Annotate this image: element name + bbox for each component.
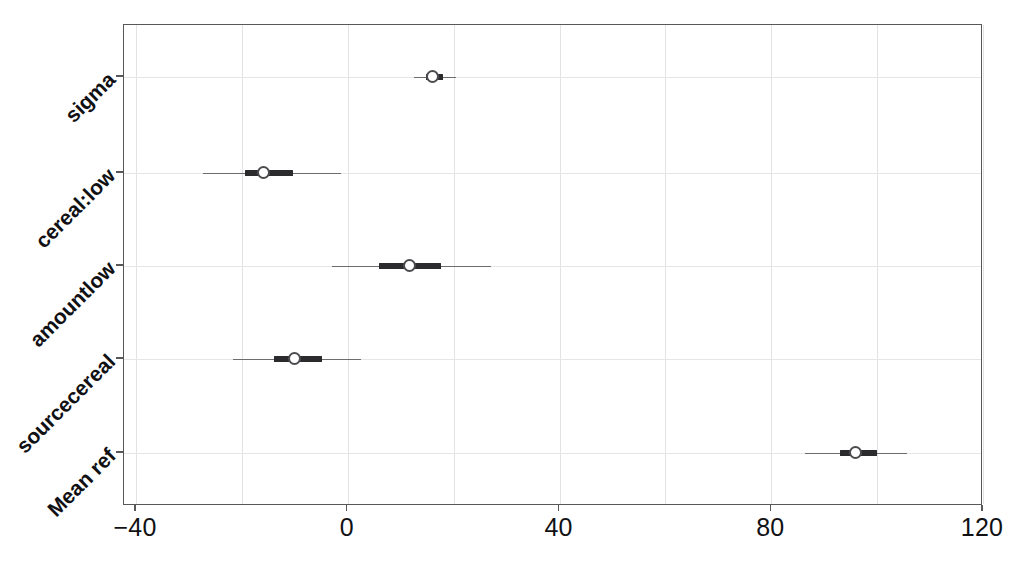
plot-area bbox=[123, 24, 982, 505]
point-estimate-marker bbox=[426, 70, 439, 83]
y-axis-tick bbox=[116, 264, 123, 265]
y-axis-tick bbox=[116, 171, 123, 172]
x-axis-tick-label: 40 bbox=[544, 513, 572, 542]
y-axis-tick-label: amountlow bbox=[25, 257, 120, 352]
y-axis-tick bbox=[116, 451, 123, 452]
interval-row bbox=[124, 66, 981, 88]
x-axis-tick bbox=[558, 505, 559, 511]
x-axis-tick-label: 0 bbox=[340, 513, 354, 542]
point-estimate-marker bbox=[849, 446, 862, 459]
x-axis-tick-label: 120 bbox=[961, 513, 1003, 542]
coefficient-interval-plot: −4004080120 sigmacereal:lowamountlowsour… bbox=[0, 0, 1017, 562]
x-axis-tick bbox=[981, 505, 982, 511]
x-axis-tick bbox=[134, 505, 135, 511]
x-axis-tick-label: −40 bbox=[113, 513, 156, 542]
interval-row bbox=[124, 348, 981, 370]
x-axis-tick-label: 80 bbox=[756, 513, 784, 542]
interval-row bbox=[124, 255, 981, 277]
x-axis-tick bbox=[770, 505, 771, 511]
x-axis-tick bbox=[346, 505, 347, 511]
point-estimate-marker bbox=[288, 352, 301, 365]
y-axis-tick-label: Mean ref bbox=[42, 444, 120, 522]
point-estimate-marker bbox=[403, 259, 416, 272]
gridline-vertical bbox=[983, 25, 984, 504]
interval-row bbox=[124, 162, 981, 184]
y-axis-tick bbox=[116, 357, 123, 358]
interval-row bbox=[124, 442, 981, 464]
y-axis-tick bbox=[116, 75, 123, 76]
y-axis-tick-label: sigma bbox=[61, 68, 121, 128]
point-estimate-marker bbox=[257, 166, 270, 179]
y-axis-tick-label: sourcecereal bbox=[12, 350, 121, 459]
y-axis-tick-label: cereal:low bbox=[31, 164, 121, 254]
